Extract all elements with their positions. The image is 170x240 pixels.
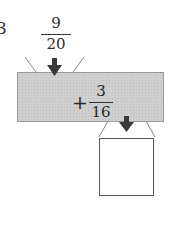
answer-box[interactable] (99, 138, 154, 196)
arrow-down-icon (47, 58, 62, 76)
arrow-down-icon (119, 116, 134, 132)
